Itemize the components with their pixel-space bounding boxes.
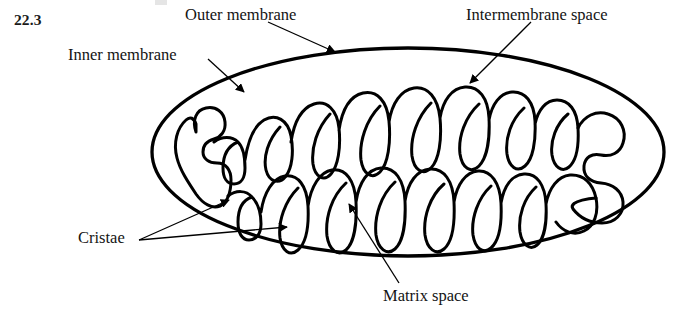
figure-container: 22.3 Outer membrane Intermembrane space … (0, 0, 679, 318)
inner-membrane-cristae-path (175, 108, 231, 207)
label-matrix-space: Matrix space (383, 288, 469, 305)
outer-membrane-leader (268, 22, 335, 52)
label-intermembrane-space: Intermembrane space (466, 7, 608, 24)
label-cristae: Cristae (78, 230, 125, 247)
label-inner-membrane: Inner membrane (68, 47, 177, 64)
matrix-space-leader (349, 204, 399, 283)
outer-membrane-ellipse (152, 48, 664, 256)
upper-cristae-path (214, 87, 578, 184)
label-outer-membrane: Outer membrane (185, 7, 296, 24)
